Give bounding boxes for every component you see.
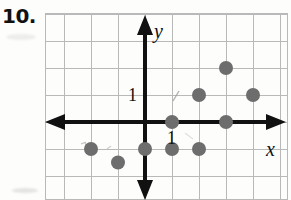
x-axis-label: x xyxy=(265,138,275,160)
data-point xyxy=(219,115,233,129)
data-point xyxy=(111,156,125,170)
data-point xyxy=(165,115,179,129)
scatter-plot-svg: yx11 xyxy=(45,13,288,200)
data-point xyxy=(192,88,206,102)
grid-lines xyxy=(45,13,288,200)
paper-smudge xyxy=(12,188,38,193)
axis-lines xyxy=(45,15,286,200)
y-axis-label: y xyxy=(152,20,163,43)
paper-smudge xyxy=(6,34,36,40)
problem-number: 10. xyxy=(2,6,36,26)
data-point xyxy=(246,88,260,102)
data-point xyxy=(138,142,152,156)
x-axis-tick-label: 1 xyxy=(167,128,176,148)
coordinate-plane: yx11 xyxy=(45,13,288,200)
y-axis-tick-label: 1 xyxy=(128,85,137,105)
data-point xyxy=(84,142,98,156)
data-point xyxy=(192,142,206,156)
worksheet-page: 10. yx11 xyxy=(0,0,291,200)
data-point xyxy=(219,61,233,75)
